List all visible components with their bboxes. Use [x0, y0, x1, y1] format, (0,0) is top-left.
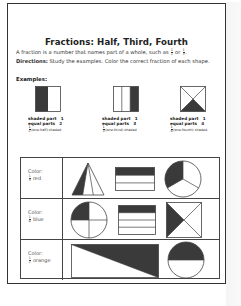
- examples-label: Examples:: [16, 76, 47, 82]
- triangle-thirds-shape[interactable]: [71, 162, 105, 196]
- square-thirds-icon: [113, 86, 139, 112]
- intro-or: or: [175, 49, 180, 55]
- row-fraction: 13: [29, 175, 31, 183]
- rectangle-fourths-shape[interactable]: [118, 205, 156, 235]
- row-fraction: 14: [29, 216, 31, 224]
- color-name: blue: [33, 216, 44, 222]
- worksheet-title: Fractions: Half, Third, Fourth: [8, 37, 225, 47]
- page-edge-shadow: [226, 2, 241, 306]
- row-label-cell: Color: 13 red: [21, 158, 63, 198]
- intro-text: A fraction is a number that names part o…: [16, 49, 187, 56]
- square-fourths-diagonal-shape[interactable]: [166, 202, 202, 238]
- exercise-row-orange: Color: 12 orange: [21, 240, 219, 280]
- row-label-cell: Color: 14 blue: [21, 199, 63, 239]
- rectangle-halves-diagonal-shape[interactable]: [71, 244, 159, 278]
- rectangle-thirds-shape[interactable]: [115, 167, 155, 191]
- color-name: orange: [33, 257, 51, 263]
- directions-label: Directions:: [16, 58, 48, 64]
- square-fourths-icon: [180, 86, 206, 112]
- circle-thirds-shape[interactable]: [164, 160, 202, 198]
- row-fraction: 12: [29, 257, 31, 265]
- fraction-one-half: 12: [171, 49, 173, 56]
- color-name: red: [33, 175, 41, 181]
- circle-fourths-shape[interactable]: [70, 201, 108, 239]
- intro-sentence: A fraction is a number that names part o…: [16, 49, 169, 55]
- exercise-row-red: Color: 13 red: [21, 158, 219, 199]
- exercise-grid: Color: 13 red: [20, 157, 220, 279]
- directions-text: Study the examples. Color the correct fr…: [50, 58, 210, 64]
- square-halves-icon: [35, 86, 61, 112]
- color-label: Color:: [28, 250, 51, 257]
- row-label-cell: Color: 12 orange: [21, 240, 63, 280]
- directions: Directions: Study the examples. Color th…: [16, 58, 221, 65]
- circle-halves-shape[interactable]: [167, 241, 205, 279]
- exercise-row-blue: Color: 14 blue: [21, 199, 219, 240]
- worksheet-page: Fractions: Half, Third, Fourth A fractio…: [7, 3, 226, 284]
